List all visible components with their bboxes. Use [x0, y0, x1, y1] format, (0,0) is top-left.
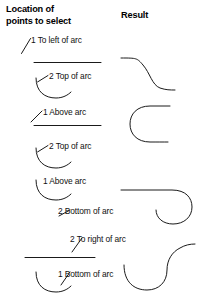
row-1-point-2-label: 2 Top of arc [49, 71, 91, 81]
row-1-result-geometry [121, 58, 175, 90]
row-1-point-1-label: 1 To left of arc [31, 35, 82, 45]
row-2-point-2-label: 2 Top of arc [49, 141, 91, 151]
row-4-point-1-label: 1 Bottom of arc [58, 269, 113, 279]
row-3-input-geometry [31, 111, 101, 168]
row-4-point-2-label: 2 To right of arc [70, 234, 126, 244]
row-1-point-1-leader [22, 39, 31, 54]
result-column-header: Result [121, 10, 181, 22]
location-column-header: Location of points to select [6, 4, 102, 27]
row-3-arc [36, 148, 71, 168]
row-3-point-2-leader [38, 146, 49, 153]
row-2-result-curve [130, 106, 170, 142]
row-4-result-geometry [124, 244, 195, 290]
row-3-point-1-leader [31, 111, 42, 122]
row-3-result-curve [121, 190, 192, 224]
row-3-point-2-label: 2 Bottom of arc [58, 206, 113, 216]
row-2-point-1-label: 1 Above arc [43, 107, 86, 117]
fillet-selection-diagram: Location of points to select Result 1 To… [0, 0, 204, 298]
row-3-point-1-label: 1 Above arc [43, 176, 86, 186]
row-4-result-curve [124, 244, 195, 290]
row-2-point-2-leader [38, 76, 49, 83]
row-2-result-geometry [130, 106, 170, 142]
row-3-result-geometry [121, 190, 192, 224]
row-1-result-curve [121, 58, 175, 90]
row-2-arc [36, 78, 71, 98]
